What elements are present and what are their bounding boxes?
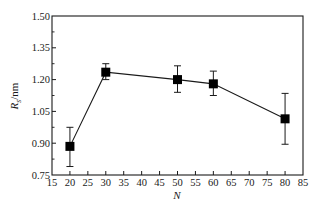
data-series: [65, 64, 289, 167]
square-marker: [65, 142, 74, 151]
y-axis-label-unit: /nm: [8, 82, 20, 100]
y-tick-label: 0.90: [32, 138, 50, 149]
y-tick-label: 1.35: [32, 42, 50, 53]
y-tick-label: 1.05: [32, 106, 50, 117]
data-point: [281, 93, 290, 144]
y-axis-label: Rs/nm: [8, 82, 23, 110]
data-point: [65, 127, 74, 166]
axes: [52, 16, 303, 175]
plot-frame: [52, 16, 303, 175]
x-tick-label: 55: [190, 177, 201, 188]
square-marker: [101, 68, 110, 77]
data-point: [101, 64, 110, 80]
square-marker: [281, 114, 290, 123]
chart-figure: 1520253035404550556065707580850.750.901.…: [0, 0, 317, 210]
x-tick-label: 45: [154, 177, 165, 188]
data-point: [209, 71, 218, 95]
x-tick-label: 20: [65, 177, 76, 188]
line-chart-with-error-bars: 1520253035404550556065707580850.750.901.…: [0, 0, 317, 210]
x-tick-label: 85: [298, 177, 309, 188]
x-tick-label: 65: [226, 177, 237, 188]
square-marker: [209, 79, 218, 88]
x-axis-label: N: [172, 189, 181, 201]
x-tick-label: 35: [118, 177, 129, 188]
x-tick-label: 40: [136, 177, 147, 188]
data-point: [173, 66, 182, 93]
x-tick-label: 50: [172, 177, 183, 188]
x-tick-label: 70: [244, 177, 255, 188]
tick-marks: [52, 32, 285, 175]
x-tick-label: 30: [101, 177, 112, 188]
y-tick-label: 0.75: [32, 170, 50, 181]
x-tick-label: 80: [280, 177, 291, 188]
y-tick-label: 1.50: [32, 11, 50, 22]
x-tick-label: 75: [262, 177, 273, 188]
y-tick-label: 1.20: [32, 74, 50, 85]
tick-labels: 1520253035404550556065707580850.750.901.…: [32, 11, 309, 189]
x-tick-label: 60: [208, 177, 219, 188]
x-tick-label: 25: [83, 177, 94, 188]
square-marker: [173, 75, 182, 84]
